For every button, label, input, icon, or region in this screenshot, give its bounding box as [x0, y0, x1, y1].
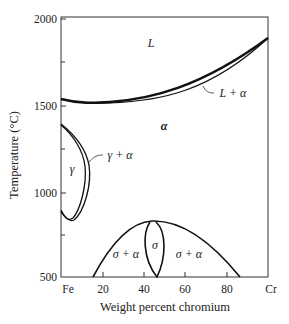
x-tick-label: Cr — [265, 283, 277, 295]
region-label-sigma-alpha-left: σ + α — [113, 247, 140, 261]
x-tick-label: 40 — [138, 283, 150, 295]
region-label-gamma: γ — [70, 162, 75, 176]
x-tick-label: 60 — [179, 283, 191, 295]
region-label-liquid: L — [147, 36, 155, 50]
x-axis-title: Weight percent chromium — [100, 300, 230, 314]
x-tick-label: 80 — [221, 283, 233, 295]
region-label-gamma-alpha: γ + α — [107, 148, 133, 162]
x-tick-label: Fe — [62, 283, 74, 295]
y-tick-label: 2000 — [34, 13, 57, 25]
plot-frame — [61, 17, 268, 277]
phase-diagram: 2000 1500 1000 500 Fe 20 40 60 80 Cr Wei… — [0, 0, 289, 324]
y-axis-title: Temperature (°C) — [7, 111, 21, 199]
y-tick-label: 500 — [40, 271, 58, 283]
region-label-alpha: α — [161, 119, 168, 133]
region-label-sigma-alpha-right: σ + α — [176, 247, 203, 261]
y-tick-label: 1500 — [34, 100, 57, 112]
region-label-sigma: σ — [152, 238, 159, 252]
y-tick-label: 1000 — [34, 187, 57, 199]
region-label-liquid-alpha: L + α — [219, 86, 248, 100]
x-tick-label: 20 — [97, 283, 109, 295]
x-axis — [103, 272, 227, 277]
liquid-alpha-leader — [203, 86, 214, 93]
gamma-alpha-leader — [89, 155, 103, 162]
